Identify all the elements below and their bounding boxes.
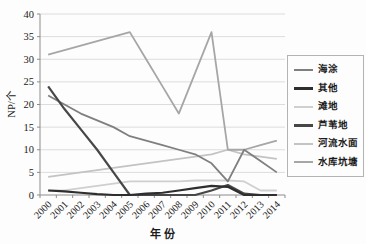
legend-line-swatch [294, 106, 313, 108]
legend-item: 河流水面 [294, 139, 357, 149]
x-axis-title: 年 份 [40, 225, 285, 241]
legend-line-swatch [294, 69, 313, 71]
y-tick-label: 40 [24, 9, 35, 20]
legend-label: 海涂 [318, 65, 338, 75]
legend-line-swatch [294, 161, 313, 163]
legend-label: 其他 [318, 84, 338, 94]
legend-line-swatch [294, 87, 313, 90]
x-tick-label: 2014 [260, 199, 282, 221]
y-axis-title: NP/个 [3, 44, 18, 166]
y-tick-label: 35 [24, 31, 35, 42]
y-tick-label: 5 [29, 167, 34, 178]
legend: 海涂 其他 滩地 芦苇地 河流水面 水库坑塘 [287, 55, 364, 177]
series-line [48, 181, 277, 191]
series-line [48, 86, 277, 195]
legend-item: 水库坑塘 [294, 158, 357, 168]
legend-line-swatch [294, 124, 313, 127]
legend-item: 芦苇地 [294, 121, 357, 131]
legend-item: 海涂 [294, 65, 357, 75]
legend-label: 河流水面 [318, 139, 358, 149]
y-tick-label: 20 [24, 99, 35, 110]
legend-item: 滩地 [294, 102, 357, 112]
y-tick-label: 0 [29, 190, 34, 201]
y-tick-label: 15 [24, 122, 35, 133]
legend-label: 芦苇地 [318, 121, 348, 131]
y-tick-label: 30 [24, 54, 35, 65]
series-line [48, 95, 277, 181]
y-tick-label: 25 [24, 76, 35, 87]
legend-item: 其他 [294, 84, 357, 94]
line-chart-figure: 0510152025303540200020012002200320042005… [0, 0, 366, 244]
y-tick-label: 10 [24, 144, 35, 155]
legend-label: 水库坑塘 [318, 158, 358, 168]
legend-label: 滩地 [318, 102, 338, 112]
legend-line-swatch [294, 143, 313, 145]
